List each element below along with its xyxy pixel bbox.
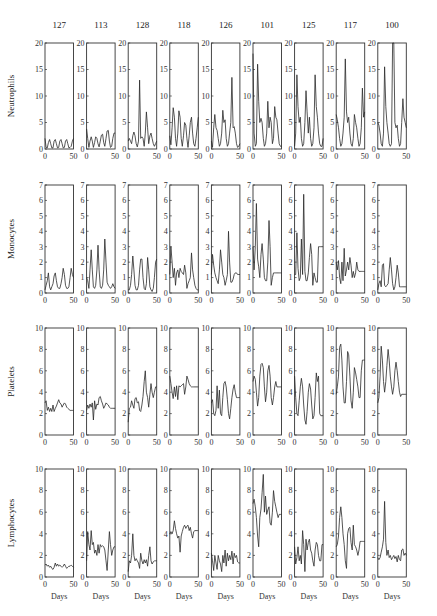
x-tick-label: 50 [361, 296, 369, 305]
y-tick-label: 1 [205, 273, 209, 282]
y-tick-label: 4 [372, 388, 376, 397]
y-tick-label: 6 [247, 367, 251, 376]
x-tick-label: 50 [236, 296, 244, 305]
panel-frame [87, 43, 116, 149]
y-tick-label: 5 [247, 118, 251, 127]
y-tick-label: 5 [330, 212, 334, 221]
y-tick-label: 7 [289, 181, 293, 190]
y-tick-label: 10 [201, 92, 209, 101]
y-tick-label: 10 [35, 324, 43, 333]
y-tick-label: 10 [368, 324, 376, 333]
y-tick-label: 6 [164, 367, 168, 376]
panel-frame [128, 185, 157, 293]
y-tick-label: 1 [164, 273, 168, 282]
y-tick-label: 20 [243, 39, 251, 48]
y-tick-label: 8 [330, 486, 334, 495]
y-tick-label: 2 [247, 409, 251, 418]
series-line-117 [336, 344, 365, 408]
x-tick-label: 50 [111, 152, 119, 161]
x-tick-label: 0 [43, 438, 47, 447]
y-tick-label: 3 [39, 243, 43, 252]
y-tick-label: 15 [77, 65, 85, 74]
x-tick-label: 50 [111, 580, 119, 589]
series-line-125 [295, 75, 324, 147]
y-tick-label: 4 [122, 388, 126, 397]
x-tick-label: 50 [361, 438, 369, 447]
panel-frame [378, 469, 407, 577]
x-tick-label: 0 [168, 152, 172, 161]
panel-frame [170, 185, 199, 293]
y-tick-label: 20 [326, 39, 334, 48]
y-tick-label: 3 [81, 243, 85, 252]
column-title: 127 [53, 20, 67, 30]
y-tick-label: 8 [247, 345, 251, 354]
x-tick-label: 0 [85, 580, 89, 589]
x-tick-label: 50 [236, 152, 244, 161]
y-tick-label: 4 [81, 530, 85, 539]
series-line-127 [45, 563, 74, 569]
y-tick-label: 5 [164, 118, 168, 127]
series-line-128 [128, 371, 157, 422]
y-tick-label: 6 [289, 508, 293, 517]
y-tick-label: 8 [81, 486, 85, 495]
y-tick-label: 5 [247, 212, 251, 221]
series-line-125 [295, 531, 324, 572]
series-line-101 [253, 204, 282, 286]
y-tick-label: 2 [122, 409, 126, 418]
x-tick-label: 50 [70, 296, 78, 305]
y-tick-label: 6 [164, 508, 168, 517]
series-line-100 [378, 501, 407, 562]
y-tick-label: 15 [201, 65, 209, 74]
series-line-113 [87, 531, 116, 571]
x-tick-label: 50 [319, 580, 327, 589]
y-tick-label: 15 [326, 65, 334, 74]
column-title: 117 [344, 20, 358, 30]
y-tick-label: 1 [289, 273, 293, 282]
x-tick-label: 0 [376, 152, 380, 161]
panel-frame [87, 328, 116, 435]
x-tick-label: 50 [153, 580, 161, 589]
y-tick-label: 6 [205, 508, 209, 517]
series-line-126 [211, 550, 240, 572]
x-tick-label: 0 [43, 296, 47, 305]
x-tick-label: 50 [153, 296, 161, 305]
y-tick-label: 2 [122, 258, 126, 267]
series-line-117 [336, 507, 365, 569]
series-line-125 [295, 373, 324, 424]
x-tick-label: 50 [402, 580, 410, 589]
x-tick-label: 50 [278, 580, 286, 589]
series-line-118 [170, 247, 199, 290]
y-tick-label: 2 [372, 258, 376, 267]
series-line-128 [128, 80, 157, 147]
series-line-128 [128, 534, 157, 572]
y-tick-label: 10 [77, 92, 85, 101]
x-tick-label: 0 [334, 152, 338, 161]
x-axis-label: Days [384, 592, 400, 601]
y-tick-label: 8 [164, 486, 168, 495]
y-tick-label: 4 [81, 227, 85, 236]
y-tick-label: 2 [164, 409, 168, 418]
series-line-118 [170, 521, 199, 552]
y-tick-label: 2 [39, 258, 43, 267]
y-tick-label: 8 [372, 486, 376, 495]
y-tick-label: 2 [205, 409, 209, 418]
y-tick-label: 20 [368, 39, 376, 48]
y-tick-label: 10 [201, 324, 209, 333]
column-title: 100 [385, 20, 399, 30]
y-tick-label: 5 [81, 212, 85, 221]
y-tick-label: 15 [368, 65, 376, 74]
y-tick-label: 2 [330, 258, 334, 267]
y-tick-label: 8 [164, 345, 168, 354]
y-tick-label: 6 [39, 367, 43, 376]
x-tick-label: 50 [236, 580, 244, 589]
y-tick-label: 1 [247, 273, 251, 282]
y-tick-label: 8 [39, 486, 43, 495]
y-tick-label: 5 [372, 118, 376, 127]
panel-frame [211, 328, 240, 435]
y-tick-label: 4 [372, 530, 376, 539]
y-tick-label: 7 [39, 181, 43, 190]
x-tick-label: 50 [319, 296, 327, 305]
y-tick-label: 5 [122, 212, 126, 221]
series-line-101 [253, 474, 282, 546]
series-line-117 [336, 59, 365, 146]
